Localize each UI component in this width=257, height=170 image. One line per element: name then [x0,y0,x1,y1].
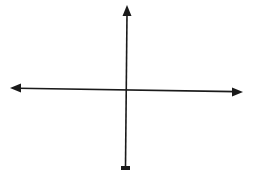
diagram-canvas [0,0,257,170]
up-arrow-icon [123,5,132,16]
vertical-axis [121,5,132,170]
coordinate-axes [0,0,257,170]
right-arrow-icon [232,88,243,97]
left-arrow-icon [10,84,21,93]
down-arrow-icon [121,166,130,170]
